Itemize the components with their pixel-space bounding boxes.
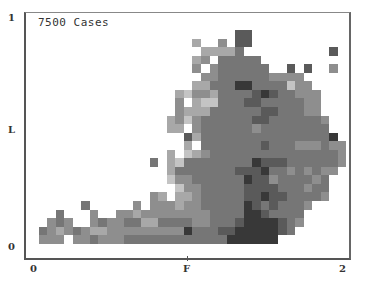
heatmap-cell <box>304 107 313 116</box>
heatmap-cell <box>261 73 270 82</box>
heatmap-cell <box>192 158 201 167</box>
heatmap-cell <box>90 218 99 227</box>
heatmap-cell <box>329 158 338 167</box>
heatmap-cell <box>278 227 287 236</box>
heatmap-cell <box>295 201 304 210</box>
heatmap-cell <box>158 218 167 227</box>
heatmap-cell <box>124 227 133 236</box>
heatmap-cell <box>218 192 227 201</box>
heatmap-cell <box>261 201 270 210</box>
heatmap-cell <box>295 116 304 125</box>
heatmap-cell <box>175 227 184 236</box>
heatmap-cell <box>235 201 244 210</box>
heatmap-cell <box>278 201 287 210</box>
heatmap-cell <box>201 227 210 236</box>
heatmap-cell <box>252 201 261 210</box>
heatmap-cell <box>210 47 219 56</box>
heatmap-cell <box>312 90 321 99</box>
heatmap-cell <box>244 150 253 159</box>
heatmap-cell <box>304 167 313 176</box>
heatmap-cell <box>116 218 125 227</box>
heatmap-cell <box>235 73 244 82</box>
heatmap-cell <box>278 73 287 82</box>
heatmap-cell <box>210 150 219 159</box>
heatmap-cell <box>210 98 219 107</box>
heatmap-cell <box>295 167 304 176</box>
heatmap-cell <box>201 47 210 56</box>
heatmap-cell <box>329 64 338 73</box>
heatmap-cell <box>192 107 201 116</box>
heatmap-cell <box>175 235 184 244</box>
heatmap-cell <box>210 201 219 210</box>
heatmap-cell <box>287 192 296 201</box>
heatmap-cell <box>287 218 296 227</box>
heatmap-cell <box>201 218 210 227</box>
heatmap-cell <box>304 184 313 193</box>
heatmap-cell <box>278 150 287 159</box>
heatmap-cell <box>287 201 296 210</box>
heatmap-cell <box>124 210 133 219</box>
heatmap-cell <box>150 227 159 236</box>
heatmap-cell <box>192 218 201 227</box>
heatmap-cell <box>218 227 227 236</box>
heatmap-cell <box>244 116 253 125</box>
heatmap-cell <box>312 167 321 176</box>
heatmap-cell <box>218 64 227 73</box>
heatmap-cell <box>235 167 244 176</box>
heatmap-cell <box>269 201 278 210</box>
heatmap-cell <box>56 227 65 236</box>
heatmap-cell <box>235 133 244 142</box>
heatmap-cell <box>218 90 227 99</box>
heatmap-cell <box>261 158 270 167</box>
heatmap-cell <box>235 141 244 150</box>
heatmap-cell <box>329 167 338 176</box>
heatmap-cell <box>321 158 330 167</box>
x-tick-label: F <box>183 263 190 274</box>
heatmap-cell <box>269 81 278 90</box>
heatmap-cell <box>141 218 150 227</box>
heatmap-cell <box>278 98 287 107</box>
heatmap-cell <box>56 210 65 219</box>
heatmap-cell <box>244 107 253 116</box>
heatmap-cell <box>321 141 330 150</box>
heatmap-cell <box>287 227 296 236</box>
heatmap-cell <box>235 235 244 244</box>
heatmap-cell <box>175 201 184 210</box>
heatmap-cell <box>235 64 244 73</box>
heatmap-cell <box>167 235 176 244</box>
heatmap-cell <box>192 133 201 142</box>
heatmap-cell <box>261 107 270 116</box>
heatmap-cell <box>227 73 236 82</box>
heatmap-cell <box>295 210 304 219</box>
heatmap-cell <box>295 107 304 116</box>
heatmap-cell <box>269 158 278 167</box>
heatmap-cell <box>158 210 167 219</box>
heatmap-cell <box>244 56 253 65</box>
heatmap-cell <box>175 192 184 201</box>
heatmap-cell <box>235 90 244 99</box>
heatmap-cell <box>218 218 227 227</box>
heatmap-cell <box>312 158 321 167</box>
heatmap-cell <box>90 227 99 236</box>
heatmap-cell <box>321 192 330 201</box>
heatmap-cell <box>295 73 304 82</box>
heatmap-cell <box>167 158 176 167</box>
heatmap-cell <box>244 235 253 244</box>
heatmap-cell <box>184 107 193 116</box>
heatmap-cell <box>210 141 219 150</box>
heatmap-cell <box>201 158 210 167</box>
heatmap-cell <box>175 107 184 116</box>
heatmap-cell <box>304 64 313 73</box>
heatmap-cell <box>269 227 278 236</box>
heatmap-cell <box>210 167 219 176</box>
heatmap-cell <box>150 201 159 210</box>
heatmap-cell <box>244 210 253 219</box>
heatmap-cell <box>312 124 321 133</box>
heatmap-cell <box>287 64 296 73</box>
y-tick-label: 1 <box>8 12 15 23</box>
heatmap-cell <box>47 227 56 236</box>
heatmap-cell <box>218 141 227 150</box>
heatmap-cell <box>227 107 236 116</box>
heatmap-cell <box>244 218 253 227</box>
heatmap-cell <box>218 158 227 167</box>
